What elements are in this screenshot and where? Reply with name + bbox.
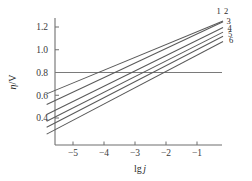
- tafel-curve-5: [47, 36, 223, 127]
- x-axis-label-group: lgj: [134, 163, 146, 174]
- curve-label-1: 1: [217, 6, 221, 16]
- y-tick-label: 0.4: [36, 113, 48, 123]
- x-tick-label: −5: [68, 148, 78, 158]
- tafel-curve-2: [47, 22, 223, 105]
- plot-axes: [55, 18, 222, 145]
- tafel-curve-1: [47, 21, 223, 94]
- y-axis-label-group: η/V: [7, 74, 18, 90]
- tafel-curves: [47, 21, 223, 134]
- y-tick-label: 1.2: [36, 22, 48, 32]
- tafel-plot-svg: −5−4−3−2−1 0.40.60.81.01.2 123456 lgj η/…: [0, 0, 252, 181]
- x-tick-label: −1: [192, 148, 202, 158]
- tafel-curve-3: [47, 27, 223, 114]
- figure-container: −5−4−3−2−1 0.40.60.81.01.2 123456 lgj η/…: [0, 0, 252, 181]
- x-axis-label: lgj: [134, 163, 146, 174]
- y-axis-tick-labels: 0.40.60.81.01.2: [36, 22, 48, 123]
- x-tick-label: −2: [161, 148, 171, 158]
- y-tick-label: 1.0: [36, 45, 48, 55]
- x-axis-tick-labels: −5−4−3−2−1: [68, 148, 202, 158]
- x-tick-label: −3: [130, 148, 140, 158]
- y-tick-label: 0.6: [36, 91, 48, 101]
- curve-label-6: 6: [229, 35, 233, 45]
- y-tick-label: 0.8: [36, 68, 48, 78]
- y-axis-label: η/V: [7, 74, 18, 90]
- x-tick-label: −4: [99, 148, 109, 158]
- tafel-curve-4: [47, 32, 223, 121]
- curve-label-2: 2: [224, 6, 228, 16]
- curve-number-labels: 123456: [217, 6, 234, 45]
- tafel-curve-6: [47, 42, 223, 135]
